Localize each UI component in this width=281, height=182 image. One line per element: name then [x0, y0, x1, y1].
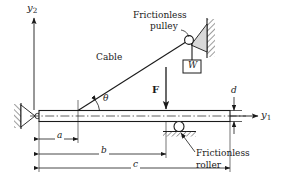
pulley-label-line1: Frictionless — [133, 11, 187, 20]
dimension-label-d: d — [231, 86, 237, 95]
figure-canvas: y2 y1 Frictionless pulley Cable W F θ Fr… — [0, 0, 281, 182]
dimension-label-c: c — [131, 160, 140, 169]
dimension-label-a: a — [55, 131, 64, 140]
dimension-label-b: b — [99, 146, 109, 155]
pulley-assembly — [185, 18, 215, 58]
axis-label-y2: y2 — [27, 3, 37, 14]
cable-label: Cable — [96, 53, 122, 62]
cable — [78, 40, 189, 111]
roller-label-line1: Frictionless — [196, 149, 250, 158]
roller-wheel — [174, 122, 184, 132]
beam — [30, 111, 246, 122]
angle-label: θ — [103, 94, 108, 103]
pulley-label-line2: pulley — [150, 22, 178, 31]
roller-support — [163, 122, 196, 153]
axis-label-y1: y1 — [261, 110, 271, 121]
weight-label: W — [188, 61, 197, 70]
force-label: F — [152, 85, 159, 96]
roller-label-line2: roller — [196, 161, 221, 170]
